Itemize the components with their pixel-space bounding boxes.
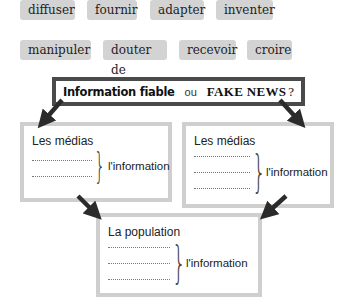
arrow-icon-left-to-bottom [78,196,96,214]
arrow-icon-right-to-bottom [266,196,286,214]
arrows-layer [0,0,350,306]
arrow-icon-title-to-left [43,100,62,122]
arrow-icon-title-to-right [280,100,300,122]
